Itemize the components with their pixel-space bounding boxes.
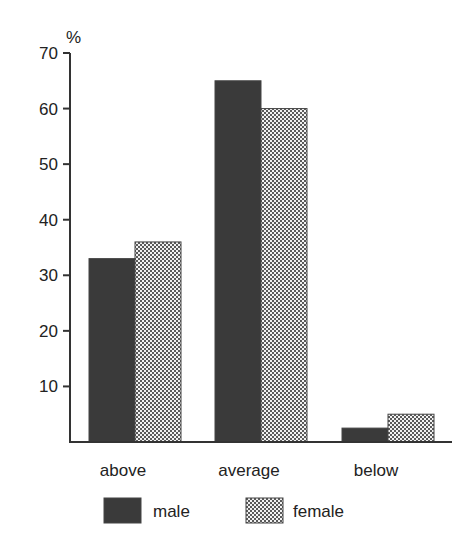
y-tick-label: 70 — [39, 44, 58, 63]
x-category-label: above — [100, 461, 146, 480]
bar-male-average — [215, 81, 261, 442]
y-tick-label: 10 — [39, 377, 58, 396]
y-tick-label: 30 — [39, 266, 58, 285]
legend-label-female: female — [293, 502, 344, 521]
x-axis: aboveaveragebelow — [69, 442, 452, 480]
y-tick-label: 50 — [39, 155, 58, 174]
bar-female-average — [261, 109, 307, 442]
bar-female-above — [135, 242, 181, 442]
legend-swatch-male — [104, 498, 141, 523]
legend: malefemale — [104, 498, 344, 523]
y-tick-label: 40 — [39, 211, 58, 230]
y-tick-label: 60 — [39, 100, 58, 119]
legend-label-male: male — [153, 502, 190, 521]
x-category-label: average — [218, 461, 279, 480]
y-unit-label: % — [66, 28, 81, 47]
bar-male-above — [89, 259, 135, 442]
bar-chart: %10203040506070 aboveaveragebelow malefe… — [0, 0, 476, 548]
y-tick-label: 20 — [39, 322, 58, 341]
bar-female-below — [388, 414, 434, 442]
x-category-label: below — [354, 461, 399, 480]
bar-male-below — [342, 428, 388, 442]
y-axis: %10203040506070 — [39, 28, 81, 442]
legend-swatch-female — [246, 498, 283, 523]
bars — [89, 81, 434, 442]
